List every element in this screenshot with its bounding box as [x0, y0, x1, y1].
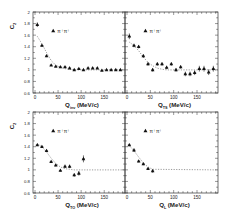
x-tick-label: 150: [100, 195, 108, 200]
triangle-marker-icon: [165, 66, 169, 69]
triangle-marker-icon: [160, 62, 164, 65]
triangle-marker-icon: [212, 67, 216, 70]
figure-canvas: 0501001500.60.811.21.41.61.82C2Qinv(MeV/…: [0, 0, 230, 217]
triangle-marker-icon: [86, 66, 90, 69]
y-tick-label: 0.8: [24, 179, 31, 184]
triangle-marker-icon: [96, 66, 100, 69]
triangle-marker-icon: [54, 64, 58, 67]
x-tick-label: 0: [34, 95, 37, 100]
x-axis-label: QTS(MeV/c): [158, 101, 191, 110]
triangle-marker-icon: [68, 66, 72, 69]
x-tick-label: 100: [77, 95, 85, 100]
x-tick-label: 100: [77, 195, 85, 200]
y-tick-label: 1: [28, 67, 31, 72]
panel-top-right: 050100150QTS(MeV/c)π⁺π⁺: [125, 12, 218, 110]
x-tick-label: 100: [170, 95, 178, 100]
x-tick-label: 50: [148, 95, 154, 100]
triangle-marker-icon: [105, 68, 109, 71]
triangle-marker-icon: [49, 160, 53, 163]
triangle-marker-icon: [68, 164, 72, 167]
y-axis-label: C2: [9, 22, 17, 29]
triangle-marker-icon: [132, 44, 136, 47]
legend-triangle-icon: [143, 29, 147, 33]
legend-label: π⁺π⁺: [57, 28, 70, 34]
triangle-marker-icon: [49, 63, 53, 66]
triangle-marker-icon: [146, 167, 150, 170]
x-axis-label: QTO(MeV/c): [65, 201, 99, 210]
triangle-marker-icon: [36, 23, 40, 26]
triangle-marker-icon: [207, 70, 211, 73]
triangle-marker-icon: [63, 164, 67, 167]
x-tick-label: 150: [193, 95, 201, 100]
x-tick-label: 0: [126, 195, 129, 200]
legend-label: π⁺π⁺: [57, 128, 70, 134]
legend-triangle-icon: [143, 129, 147, 133]
x-tick-label: 50: [148, 195, 154, 200]
y-tick-label: 1.8: [24, 21, 31, 26]
triangle-marker-icon: [54, 163, 58, 166]
x-axis-label: QL(MeV/c): [159, 201, 190, 210]
legend-triangle-icon: [51, 29, 55, 33]
legend-label: π⁺π⁺: [149, 128, 162, 134]
triangle-marker-icon: [36, 143, 40, 146]
triangle-marker-icon: [146, 62, 150, 65]
triangle-marker-icon: [198, 67, 202, 70]
x-tick-label: 50: [56, 195, 62, 200]
triangle-marker-icon: [128, 34, 132, 37]
triangle-marker-icon: [40, 145, 44, 148]
triangle-marker-icon: [202, 67, 206, 70]
triangle-marker-icon: [184, 72, 188, 75]
triangle-marker-icon: [40, 44, 44, 47]
x-tick-label: 100: [170, 195, 178, 200]
triangle-marker-icon: [100, 68, 104, 71]
triangle-marker-icon: [59, 65, 63, 68]
legend-triangle-icon: [51, 129, 55, 133]
y-tick-label: 0.6: [24, 191, 31, 196]
triangle-marker-icon: [119, 68, 123, 71]
panel-top-left: 0501001500.60.811.21.41.61.82C2Qinv(MeV/…: [9, 10, 125, 110]
triangle-marker-icon: [77, 67, 81, 70]
x-tick-label: 150: [100, 95, 108, 100]
y-tick-label: 1: [28, 167, 31, 172]
legend-label: π⁺π⁺: [149, 28, 162, 34]
triangle-marker-icon: [82, 157, 86, 160]
triangle-marker-icon: [128, 143, 132, 146]
triangle-marker-icon: [63, 65, 67, 68]
triangle-marker-icon: [188, 72, 192, 75]
plot-frame: [125, 112, 218, 193]
triangle-marker-icon: [179, 65, 183, 68]
triangle-marker-icon: [72, 173, 76, 176]
y-tick-label: 0.6: [24, 91, 31, 96]
plot-frame: [125, 12, 218, 93]
y-tick-label: 1.2: [24, 156, 31, 161]
triangle-marker-icon: [77, 171, 81, 174]
x-tick-label: 0: [126, 95, 129, 100]
triangle-marker-icon: [59, 168, 63, 171]
triangle-marker-icon: [109, 68, 113, 71]
y-tick-label: 1.4: [24, 144, 31, 149]
triangle-marker-icon: [82, 68, 86, 71]
y-tick-label: 2: [28, 110, 31, 115]
y-tick-label: 0.8: [24, 79, 31, 84]
triangle-marker-icon: [193, 71, 197, 74]
x-tick-label: 0: [34, 195, 37, 200]
y-tick-label: 2: [28, 10, 31, 15]
y-axis-label: C2: [9, 122, 17, 129]
x-tick-label: 150: [193, 195, 201, 200]
y-tick-label: 1.6: [24, 33, 31, 38]
y-tick-label: 1.2: [24, 56, 31, 61]
triangle-marker-icon: [114, 68, 118, 71]
triangle-marker-icon: [170, 62, 174, 65]
triangle-marker-icon: [174, 68, 178, 71]
triangle-marker-icon: [156, 62, 160, 65]
x-axis-label: Qinv(MeV/c): [65, 101, 99, 110]
fit-curve: [129, 146, 218, 170]
panel-bottom-right: 050100150QL(MeV/c)π⁺π⁺: [125, 112, 218, 210]
triangle-marker-icon: [151, 68, 155, 71]
y-tick-label: 1.6: [24, 133, 31, 138]
triangle-marker-icon: [137, 159, 141, 162]
x-tick-label: 50: [56, 95, 62, 100]
triangle-marker-icon: [91, 66, 95, 69]
fit-curve: [37, 144, 125, 170]
triangle-marker-icon: [137, 45, 141, 48]
